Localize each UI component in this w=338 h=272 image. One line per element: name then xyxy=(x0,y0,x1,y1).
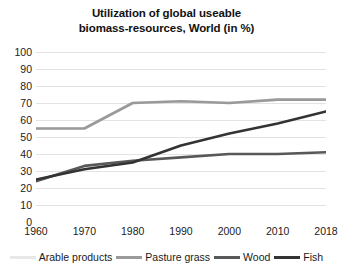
legend-swatch-icon xyxy=(274,256,300,259)
plot-area xyxy=(36,52,326,222)
y-tick-label-20: 20 xyxy=(0,183,32,194)
chart-title-line-1: Utilization of global useable xyxy=(0,6,333,21)
series-line-fish xyxy=(36,112,326,180)
legend-label: Wood xyxy=(243,251,270,263)
series-lines xyxy=(36,100,326,182)
legend-item-pasture-grass[interactable]: Pasture grass xyxy=(116,251,210,263)
y-tick-label-90: 90 xyxy=(0,64,32,75)
y-tick-label-40: 40 xyxy=(0,149,32,160)
x-tick-label-1970: 1970 xyxy=(73,225,96,237)
legend-swatch-icon xyxy=(116,256,142,259)
y-tick-label-50: 50 xyxy=(0,132,32,143)
series-line-wood xyxy=(36,152,326,181)
x-tick-label-2018: 2018 xyxy=(314,225,337,237)
y-tick-label-80: 80 xyxy=(0,81,32,92)
y-tick-label-10: 10 xyxy=(0,200,32,211)
legend-item-arable-products[interactable]: Arable products xyxy=(10,251,113,263)
chart-svg xyxy=(36,52,326,222)
x-tick-label-1960: 1960 xyxy=(24,225,47,237)
y-tick-label-100: 100 xyxy=(0,47,32,58)
legend-swatch-icon xyxy=(214,256,240,259)
chart-legend: Arable productsPasture grassWoodFish xyxy=(0,249,333,265)
y-tick-label-70: 70 xyxy=(0,98,32,109)
x-tick-label-2010: 2010 xyxy=(266,225,289,237)
chart-title-line-2: biomass-resources, World (in %) xyxy=(0,21,333,36)
legend-label: Fish xyxy=(303,251,323,263)
legend-swatch-icon xyxy=(10,256,36,259)
legend-item-wood[interactable]: Wood xyxy=(214,251,270,263)
x-tick-label-2000: 2000 xyxy=(218,225,241,237)
x-tick-label-1980: 1980 xyxy=(121,225,144,237)
legend-item-fish[interactable]: Fish xyxy=(274,251,323,263)
series-line-pasture-grass xyxy=(36,100,326,129)
y-tick-label-60: 60 xyxy=(0,115,32,126)
gridlines xyxy=(36,52,326,222)
chart-title: Utilization of global useable biomass-re… xyxy=(0,6,333,36)
x-tick-label-1990: 1990 xyxy=(169,225,192,237)
y-tick-label-30: 30 xyxy=(0,166,32,177)
legend-label: Arable products xyxy=(39,251,113,263)
x-axis: 1960197019801990200020102018 xyxy=(36,225,326,241)
series-line-arable-products xyxy=(36,100,326,129)
y-axis: 0102030405060708090100 xyxy=(0,52,32,222)
legend-label: Pasture grass xyxy=(145,251,210,263)
